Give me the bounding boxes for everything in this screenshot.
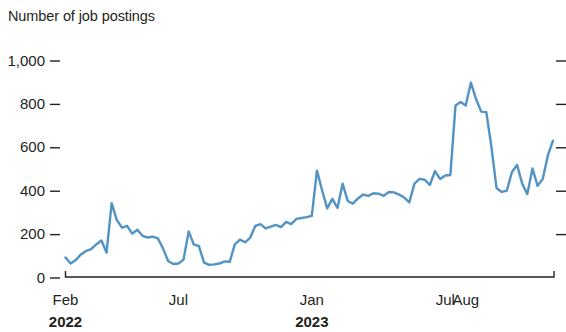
y-axis-tick-label: 800 — [20, 95, 45, 112]
chart-plot-area: 02004006008001,000 Feb2022JulJan2023JulA… — [0, 0, 566, 332]
y-axis-tick-label: 600 — [20, 138, 45, 155]
y-axis-tick-label: 200 — [20, 225, 45, 242]
x-axis-tick-label: Jan — [300, 291, 324, 308]
y-axis-tick-label: 0 — [37, 269, 45, 286]
x-axis-year-label: 2023 — [295, 313, 328, 330]
y-axis-ticks: 02004006008001,000 — [7, 52, 60, 286]
x-axis-year-label: 2022 — [49, 313, 82, 330]
y-axis-ticks-right — [556, 61, 566, 235]
y-axis-tick-label: 400 — [20, 182, 45, 199]
job-postings-line — [66, 83, 554, 265]
x-axis-tick-label: Jul — [169, 291, 188, 308]
x-axis-tick-label: Aug — [452, 291, 479, 308]
x-axis-baseline — [66, 271, 555, 277]
y-axis-tick-label: 1,000 — [7, 52, 45, 69]
x-axis-tick-label: Feb — [53, 291, 79, 308]
job-postings-chart: Number of job postings 02004006008001,00… — [0, 0, 566, 332]
x-axis-labels: Feb2022JulJan2023JulAug — [49, 291, 479, 330]
